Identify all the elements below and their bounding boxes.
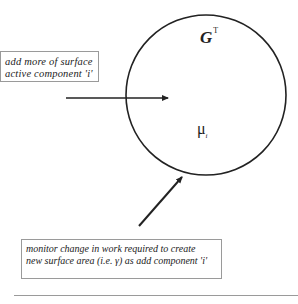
output-arrow xyxy=(139,177,182,226)
bottom-divider xyxy=(14,295,298,296)
output-annotation-line-1: monitor change in work required to creat… xyxy=(26,243,221,255)
output-annotation-box: monitor change in work required to creat… xyxy=(21,239,222,279)
gibbs-energy-label: GT xyxy=(200,28,218,48)
gibbs-symbol: G xyxy=(200,28,212,47)
input-annotation-box: add more of surface active component 'i' xyxy=(0,51,99,82)
chemical-potential-label: μi xyxy=(197,120,208,140)
input-annotation-line-2: active component 'i' xyxy=(5,68,98,80)
gibbs-superscript: T xyxy=(213,26,218,35)
mu-symbol: μ xyxy=(197,120,206,137)
input-annotation-line-1: add more of surface xyxy=(5,56,98,68)
output-annotation-line-2: new surface area (i.e. γ) as add compone… xyxy=(26,255,221,267)
mu-subscript: i xyxy=(206,132,208,140)
